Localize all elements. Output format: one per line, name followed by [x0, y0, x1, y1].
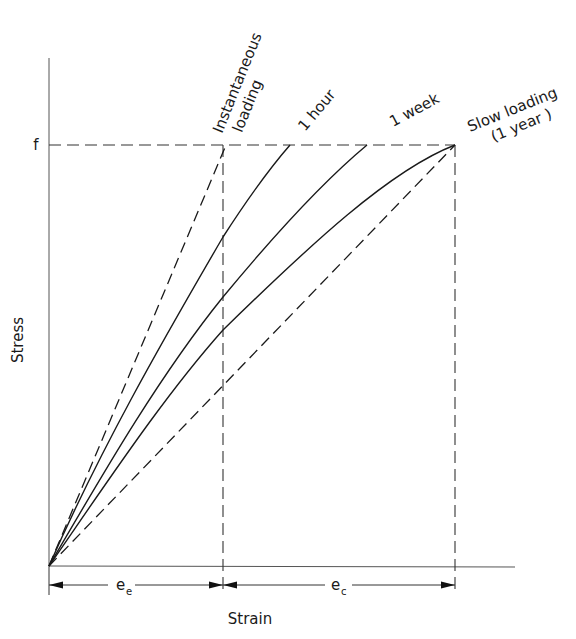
slow-loading-label: Slow loading (1 year ) [465, 83, 567, 152]
ec-subscript: c [341, 586, 347, 597]
one-hour-curve [49, 145, 290, 566]
one-week-curve [49, 145, 367, 566]
ec-main: e [331, 576, 340, 594]
one-hour-label: 1 hour [294, 85, 340, 134]
ee-main: e [116, 576, 125, 594]
f-level-label: f [33, 136, 39, 154]
y-axis-label: Stress [9, 317, 27, 363]
x-axis-label: Strain [228, 610, 272, 628]
elastic-strain-label: e e [116, 576, 132, 597]
slow-loading-secant-line [49, 145, 455, 566]
one-week-label: 1 week [386, 89, 442, 130]
instantaneous-loading-line [49, 145, 226, 566]
x-axis [49, 566, 515, 567]
instantaneous-loading-label: Instantaneous loading [209, 30, 282, 143]
stress-strain-creep-diagram: f Stress Strain Instantaneous loading 1 … [0, 0, 576, 639]
ee-subscript: e [126, 586, 132, 597]
creep-strain-label: e c [331, 576, 347, 597]
